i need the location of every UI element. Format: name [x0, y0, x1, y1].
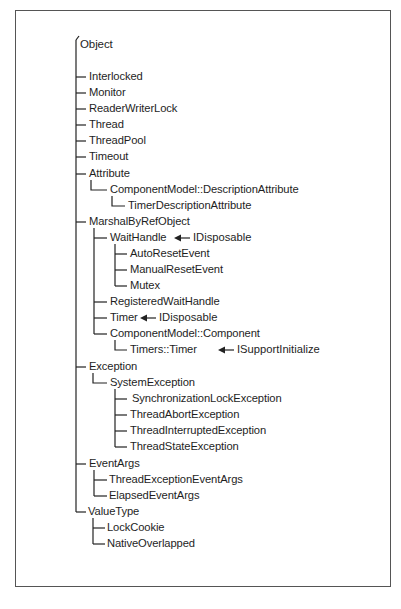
- node-threadpool: ThreadPool: [89, 134, 146, 147]
- node-interlocked: Interlocked: [89, 70, 143, 83]
- node-object: Object: [80, 38, 113, 51]
- node-timers-timer: Timers::Timer: [130, 343, 197, 356]
- node-elapsedeventargs: ElapsedEventArgs: [109, 489, 199, 502]
- interface-idisposable-timer: IDisposable: [159, 311, 217, 324]
- node-waithandle: WaitHandle: [110, 231, 166, 244]
- node-exception: Exception: [89, 360, 137, 373]
- node-monitor: Monitor: [89, 86, 126, 99]
- interface-isupportinitialize: ISupportInitialize: [237, 343, 320, 356]
- node-systemexception: SystemException: [110, 376, 195, 389]
- node-lockcookie: LockCookie: [107, 521, 164, 534]
- node-component: ComponentModel::Component: [110, 327, 260, 340]
- node-marshalbyrefobject: MarshalByRefObject: [89, 215, 190, 228]
- node-threadexceptioneventargs: ThreadExceptionEventArgs: [109, 473, 243, 486]
- node-timeout: Timeout: [89, 150, 128, 163]
- node-nativeoverlapped: NativeOverlapped: [107, 537, 195, 550]
- node-eventargs: EventArgs: [89, 457, 140, 470]
- node-thread: Thread: [89, 118, 124, 131]
- node-timerdescriptionattribute: TimerDescriptionAttribute: [128, 199, 251, 212]
- node-descriptionattribute: ComponentModel::DescriptionAttribute: [110, 183, 299, 196]
- node-registeredwaithandle: RegisteredWaitHandle: [110, 295, 220, 308]
- interface-idisposable-waithandle: IDisposable: [193, 231, 251, 244]
- node-attribute: Attribute: [89, 167, 130, 180]
- node-valuetype: ValueType: [88, 505, 139, 518]
- class-hierarchy-tree: Object Interlocked Monitor ReaderWriterL…: [0, 0, 401, 609]
- node-threadabortexception: ThreadAbortException: [130, 408, 239, 421]
- node-synchronizationlockexception: SynchronizationLockException: [132, 392, 282, 405]
- node-manualresetevent: ManualResetEvent: [130, 263, 223, 276]
- node-threadinterruptedexception: ThreadInterruptedException: [130, 424, 266, 437]
- node-mutex: Mutex: [130, 279, 160, 292]
- node-timer: Timer: [110, 311, 138, 324]
- node-autoresetevent: AutoResetEvent: [130, 247, 209, 260]
- node-threadstateexception: ThreadStateException: [130, 440, 239, 453]
- node-readerwriterlock: ReaderWriterLock: [89, 102, 177, 115]
